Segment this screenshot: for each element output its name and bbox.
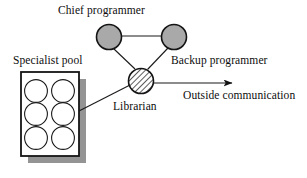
specialist-circle	[25, 127, 48, 150]
node-librarian	[129, 69, 154, 94]
specialist-circle	[25, 103, 48, 126]
diagram-canvas: Chief programmer Specialist pool Backup …	[0, 0, 307, 178]
label-backup-programmer: Backup programmer	[171, 54, 268, 67]
label-outside-communication: Outside communication	[183, 89, 295, 102]
specialist-circle	[52, 103, 75, 126]
label-chief-programmer: Chief programmer	[58, 4, 145, 17]
label-librarian: Librarian	[113, 100, 157, 113]
node-backup-programmer	[162, 25, 187, 50]
specialist-circle	[25, 80, 48, 103]
connector-backup-to-librarian	[148, 48, 169, 70]
specialist-circle	[52, 80, 75, 103]
connector-chief-to-librarian	[114, 49, 135, 69]
label-specialist-pool: Specialist pool	[13, 54, 83, 67]
specialist-pool-box	[21, 72, 79, 156]
node-chief-programmer	[97, 25, 122, 50]
specialist-circle	[52, 127, 75, 150]
